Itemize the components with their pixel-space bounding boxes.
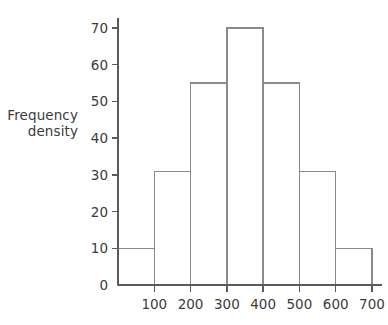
y-tick-label: 20	[66, 204, 108, 220]
histogram-bar	[191, 83, 227, 285]
x-tick-label: 200	[171, 296, 211, 312]
x-tick-label: 700	[352, 296, 388, 312]
histogram-bar	[336, 248, 372, 285]
x-tick-label: 600	[316, 296, 356, 312]
y-tick-label: 70	[66, 20, 108, 36]
histogram-bar	[263, 83, 299, 285]
y-tick-label: 40	[66, 130, 108, 146]
histogram-chart: Frequency density 0102030405060701002003…	[0, 0, 388, 325]
x-tick-label: 400	[243, 296, 283, 312]
histogram-bar	[227, 28, 263, 285]
y-tick-label: 0	[66, 277, 108, 293]
y-tick-label: 60	[66, 57, 108, 73]
plot-area	[0, 0, 388, 325]
y-tick-label: 50	[66, 93, 108, 109]
x-tick-label: 500	[279, 296, 319, 312]
histogram-bar	[118, 248, 154, 285]
bars-group	[118, 28, 372, 285]
histogram-bar	[299, 171, 335, 285]
histogram-bar	[154, 171, 190, 285]
x-tick-label: 100	[134, 296, 174, 312]
y-tick-label: 30	[66, 167, 108, 183]
y-tick-label: 10	[66, 240, 108, 256]
x-tick-label: 300	[207, 296, 247, 312]
